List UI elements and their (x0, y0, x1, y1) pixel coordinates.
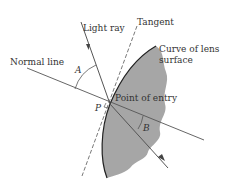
point-of-entry-label: Point of entry (115, 93, 178, 103)
curve-label-line1: Curve of lens (159, 44, 220, 54)
point-p-label: P (94, 103, 102, 113)
angle-b-label: B (142, 123, 150, 133)
angle-a-label: A (74, 65, 82, 75)
light-ray-label: Light ray (83, 23, 126, 33)
arrow-icon (158, 154, 165, 161)
curve-label-line2: surface (159, 55, 193, 65)
normal-line-label: Normal line (10, 57, 64, 67)
refraction-diagram: Light ray Tangent Curve of lens surface … (0, 0, 234, 186)
tangent-label: Tangent (137, 17, 174, 27)
